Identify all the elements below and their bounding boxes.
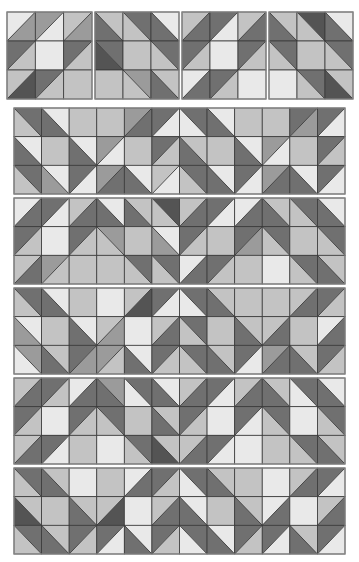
panel-cell <box>207 435 235 464</box>
panel-cell <box>207 525 235 554</box>
panel-cell <box>207 345 235 374</box>
panel-cell <box>97 165 125 194</box>
panel-cell <box>42 378 70 407</box>
panel-cell <box>235 468 263 497</box>
panel-cell <box>262 255 290 284</box>
block-cell <box>64 70 92 99</box>
panel-cell <box>317 435 345 464</box>
panel-cell <box>207 497 235 526</box>
panel-cell <box>97 288 125 317</box>
block-cell <box>123 41 151 70</box>
panel-cell <box>124 255 152 284</box>
panel-cell <box>207 198 235 227</box>
panel-cell <box>207 468 235 497</box>
panel-cell <box>152 165 180 194</box>
panel-cell <box>69 288 97 317</box>
panel-cell <box>42 137 70 166</box>
block-cell <box>151 70 179 99</box>
block-cell <box>123 70 151 99</box>
panel-cell <box>180 108 208 137</box>
block-cell <box>95 70 123 99</box>
panel-cell <box>152 227 180 256</box>
block-cell <box>35 12 63 41</box>
block-cell <box>151 12 179 41</box>
panel-cell <box>69 468 97 497</box>
panel-cell <box>317 198 345 227</box>
block-cell <box>151 41 179 70</box>
block-cell <box>325 70 353 99</box>
block-cell <box>7 70 35 99</box>
panel-cell <box>69 497 97 526</box>
panel-cell <box>152 198 180 227</box>
block-cell <box>297 12 325 41</box>
panel-cell <box>180 345 208 374</box>
panel-cell <box>207 288 235 317</box>
panel-cell <box>235 108 263 137</box>
block-cell <box>210 12 238 41</box>
panel-cell <box>124 317 152 346</box>
block-cell <box>297 41 325 70</box>
panel-cell <box>152 468 180 497</box>
panel-cell <box>42 165 70 194</box>
panel-cell <box>317 345 345 374</box>
panel-cell <box>262 378 290 407</box>
panel-cell <box>317 407 345 436</box>
panel-cell <box>290 227 318 256</box>
panel-cell <box>290 345 318 374</box>
panel-cell <box>97 345 125 374</box>
panel-cell <box>290 525 318 554</box>
panel-cell <box>97 435 125 464</box>
panel-cell <box>42 108 70 137</box>
panel-cell <box>14 198 42 227</box>
panel-cell <box>180 288 208 317</box>
panel-cell <box>317 378 345 407</box>
panel-cell <box>42 288 70 317</box>
panel-cell <box>262 198 290 227</box>
panel-cell <box>317 288 345 317</box>
panel-cell <box>42 497 70 526</box>
panel-cell <box>290 137 318 166</box>
panel-cell <box>97 255 125 284</box>
panel-cell <box>152 378 180 407</box>
panel-cell <box>69 198 97 227</box>
panel-cell <box>262 435 290 464</box>
panel-cell <box>69 378 97 407</box>
panel-cell <box>14 317 42 346</box>
panel-cell <box>262 497 290 526</box>
panel-cell <box>69 345 97 374</box>
panel-cell <box>124 525 152 554</box>
panel-cell <box>14 227 42 256</box>
panel-cell <box>290 378 318 407</box>
block-cell <box>182 12 210 41</box>
panel-cell <box>235 198 263 227</box>
panel-cell <box>235 317 263 346</box>
panel-cell <box>97 525 125 554</box>
block-cell <box>238 41 266 70</box>
panel-cell <box>42 407 70 436</box>
panel-cell <box>262 165 290 194</box>
panel-cell <box>180 227 208 256</box>
quilt-panels-stack <box>14 108 345 554</box>
block-2 <box>95 12 179 99</box>
panel-cell <box>152 317 180 346</box>
panel-cell <box>235 435 263 464</box>
panel-cell <box>317 108 345 137</box>
panel-cell <box>290 435 318 464</box>
panel-cell <box>97 317 125 346</box>
panel-cell <box>180 525 208 554</box>
panel-cell <box>14 407 42 436</box>
panel-cell <box>262 288 290 317</box>
panel-cell <box>124 137 152 166</box>
panel-cell <box>124 345 152 374</box>
panel-cell <box>235 227 263 256</box>
panel-cell <box>180 255 208 284</box>
panel-cell <box>124 435 152 464</box>
panel-1 <box>14 108 345 194</box>
panel-cell <box>14 435 42 464</box>
panel-cell <box>97 108 125 137</box>
panel-cell <box>207 407 235 436</box>
panel-cell <box>14 288 42 317</box>
panel-cell <box>262 108 290 137</box>
panel-cell <box>235 288 263 317</box>
panel-cell <box>69 137 97 166</box>
